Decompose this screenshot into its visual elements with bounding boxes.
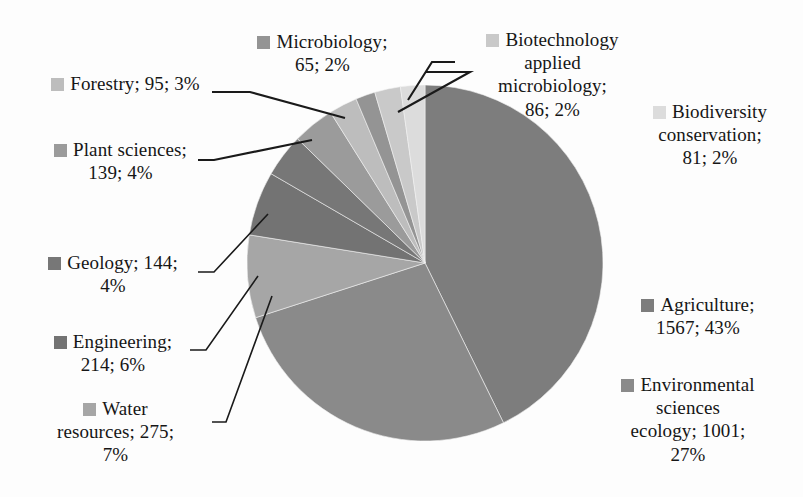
label-geology-line1: Geology; 144;: [67, 252, 178, 273]
label-water-resources-line3: 7%: [103, 444, 129, 465]
label-biodiversity-line1: Biodiversity: [672, 101, 767, 122]
label-environmental-sciences-ecology: Environmental sciences ecology; 1001; 27…: [580, 373, 796, 466]
label-environmental-line1: Environmental: [640, 374, 754, 395]
label-plant-sciences: Plant sciences; 139; 4%: [18, 138, 223, 184]
label-biodiversity-conservation: Biodiversity conservation; 81; 2%: [620, 100, 800, 170]
label-biodiversity-line2: conservation;: [658, 124, 762, 145]
label-plant-sciences-line2: 139; 4%: [88, 162, 153, 183]
label-water-resources-line1: Water: [102, 398, 147, 419]
pie-chart-figure: Microbiology; 65; 2% Biotechnology appli…: [0, 0, 803, 497]
label-engineering: Engineering; 214; 6%: [18, 330, 208, 376]
label-biotechnology-line1: Biotechnology: [505, 29, 618, 50]
label-water-resources: Water resources; 275; 7%: [8, 397, 223, 467]
swatch-biodiversity-icon: [653, 106, 666, 119]
label-environmental-line2: sciences: [656, 397, 720, 418]
label-agriculture: Agriculture; 1567; 43%: [600, 293, 796, 339]
swatch-environmental-icon: [621, 379, 634, 392]
label-geology-line2: 4%: [100, 275, 126, 296]
label-biotechnology-line2: applied: [524, 52, 581, 73]
swatch-engineering-icon: [54, 336, 67, 349]
swatch-biotechnology-icon: [486, 34, 499, 47]
label-agriculture-line1: Agriculture;: [660, 294, 754, 315]
label-forestry: Forestry; 95; 3%: [18, 72, 233, 95]
label-engineering-line1: Engineering;: [73, 331, 172, 352]
label-biotechnology-line3: microbiology;: [498, 75, 607, 96]
label-engineering-line2: 214; 6%: [81, 354, 146, 375]
label-biodiversity-line3: 81; 2%: [683, 147, 738, 168]
label-biotechnology-line4: 86; 2%: [525, 99, 580, 120]
swatch-microbiology-icon: [257, 36, 270, 49]
label-plant-sciences-line1: Plant sciences;: [73, 139, 187, 160]
label-microbiology-line2: 65; 2%: [295, 54, 350, 75]
pie-svg: [247, 85, 603, 441]
label-microbiology: Microbiology; 65; 2%: [205, 30, 440, 76]
label-agriculture-line2: 1567; 43%: [656, 317, 740, 338]
swatch-plant-sciences-icon: [54, 144, 67, 157]
pie-chart: [247, 85, 603, 441]
label-environmental-line4: 27%: [670, 444, 705, 465]
label-environmental-line3: ecology; 1001;: [631, 420, 746, 441]
swatch-agriculture-icon: [641, 299, 654, 312]
label-water-resources-line2: resources; 275;: [57, 421, 174, 442]
label-geology: Geology; 144; 4%: [18, 251, 208, 297]
label-microbiology-line1: Microbiology;: [276, 31, 387, 52]
swatch-geology-icon: [48, 257, 61, 270]
label-forestry-line1: Forestry; 95; 3%: [70, 73, 199, 94]
swatch-water-resources-icon: [83, 403, 96, 416]
swatch-forestry-icon: [51, 78, 64, 91]
